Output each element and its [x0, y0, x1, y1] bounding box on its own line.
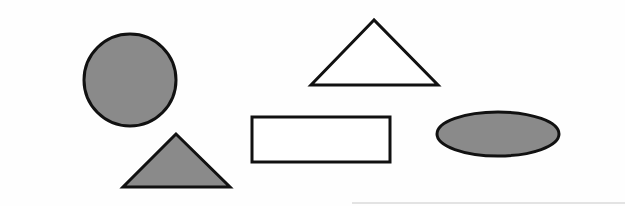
- filled-circle: [84, 34, 176, 126]
- outline-triangle: [311, 20, 438, 85]
- shape-layer: [84, 20, 559, 187]
- filled-ellipse: [437, 112, 559, 156]
- shapes-canvas: [0, 0, 625, 206]
- filled-triangle: [123, 134, 230, 187]
- outline-rectangle: [252, 117, 390, 162]
- shapes-diagram: [0, 0, 625, 206]
